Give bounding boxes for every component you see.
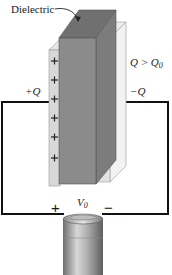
battery-voltage-label: V0 [77, 197, 88, 210]
condition-main: Q > Q [130, 56, 159, 68]
diagram-graphic [0, 0, 172, 275]
positive-charge-label: +Q [25, 86, 40, 97]
battery [63, 214, 103, 275]
voltage-main: V [77, 196, 84, 208]
dielectric-slab [59, 10, 116, 184]
battery-positive-terminal: + [51, 200, 60, 215]
capacitor-dielectric-diagram: Dielectric Q > Q0 +Q −Q + V0 − [0, 0, 172, 275]
condition-subscript: 0 [159, 61, 163, 70]
battery-negative-terminal: − [104, 200, 113, 215]
dielectric-label: Dielectric [11, 4, 54, 15]
voltage-subscript: 0 [84, 201, 88, 210]
charge-condition-label: Q > Q0 [130, 57, 163, 70]
negative-charge-label: −Q [130, 86, 145, 97]
